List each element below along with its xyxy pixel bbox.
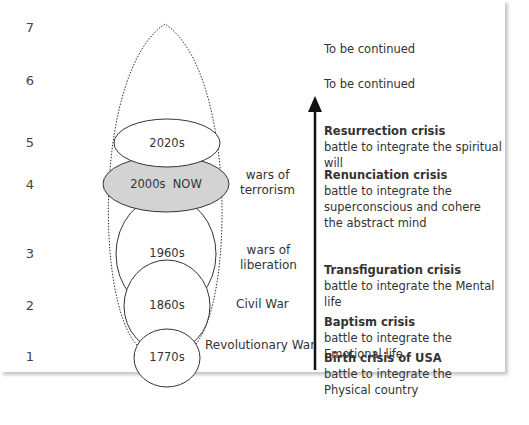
side-label-line: wars of — [240, 168, 295, 183]
side-label-line: liberation — [240, 258, 297, 273]
era-label-2020s: 2020s — [149, 136, 184, 150]
crisis-birth-usa: Birth crisis of USA battle to integrate … — [324, 350, 489, 398]
crisis-resurrection: Resurrection crisis battle to integrate … — [324, 123, 504, 171]
level-number-6: 6 — [22, 73, 38, 88]
level-number-4: 4 — [22, 177, 38, 192]
crisis-title: Resurrection crisis — [324, 123, 504, 139]
side-label-wars-of-terrorism: wars of terrorism — [240, 168, 295, 198]
crisis-description: battle to integrate the Physical country — [324, 367, 452, 397]
continued-label-level-6: To be continued — [324, 77, 415, 91]
side-label-line: Revolutionary War — [205, 338, 315, 353]
side-label-civil-war: Civil War — [236, 297, 289, 312]
crisis-title: Transfiguration crisis — [324, 262, 504, 278]
level-number-1: 1 — [22, 349, 38, 364]
era-label-1960s: 1960s — [149, 246, 184, 260]
crisis-title: Renunciation crisis — [324, 167, 489, 183]
level-number-2: 2 — [22, 298, 38, 313]
arrow-up-icon — [308, 96, 322, 112]
era-label-1770s: 1770s — [149, 350, 184, 364]
era-label-2000s-now: 2000s NOW — [130, 177, 202, 191]
crisis-description: battle to integrate the Mental life — [324, 279, 494, 309]
side-label-revolutionary-war: Revolutionary War — [205, 338, 315, 353]
crisis-title: Birth crisis of USA — [324, 350, 489, 366]
crisis-renunciation: Renunciation crisis battle to integrate … — [324, 167, 489, 231]
level-number-5: 5 — [22, 135, 38, 150]
crisis-title: Baptism crisis — [324, 314, 504, 330]
crisis-description: battle to integrate the superconscious a… — [324, 184, 481, 230]
level-number-3: 3 — [22, 246, 38, 261]
side-label-wars-of-liberation: wars of liberation — [240, 243, 297, 273]
side-label-line: terrorism — [240, 183, 295, 198]
continued-label-level-7: To be continued — [324, 42, 415, 56]
level-number-7: 7 — [22, 20, 38, 35]
crisis-transfiguration: Transfiguration crisis battle to integra… — [324, 262, 504, 310]
crisis-description: battle to integrate the spiritual will — [324, 140, 502, 170]
side-label-line: wars of — [240, 243, 297, 258]
side-label-line: Civil War — [236, 297, 289, 312]
era-label-1860s: 1860s — [149, 298, 184, 312]
